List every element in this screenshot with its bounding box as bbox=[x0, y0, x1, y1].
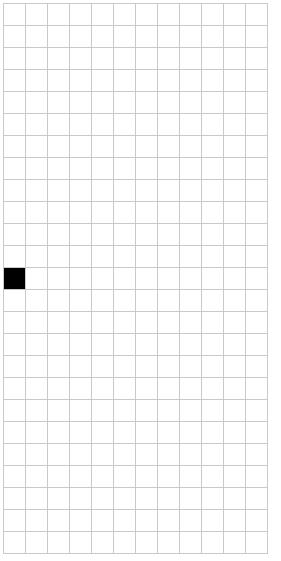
grid-cell[interactable] bbox=[4, 136, 26, 158]
grid-cell[interactable] bbox=[246, 356, 268, 378]
grid-cell[interactable] bbox=[180, 312, 202, 334]
grid-cell[interactable] bbox=[158, 532, 180, 554]
grid-cell[interactable] bbox=[26, 26, 48, 48]
grid-cell[interactable] bbox=[48, 400, 70, 422]
grid-cell[interactable] bbox=[4, 334, 26, 356]
grid-cell[interactable] bbox=[4, 92, 26, 114]
grid-cell[interactable] bbox=[48, 70, 70, 92]
grid-cell[interactable] bbox=[26, 290, 48, 312]
grid-cell[interactable] bbox=[224, 114, 246, 136]
grid-cell[interactable] bbox=[136, 268, 158, 290]
grid-cell[interactable] bbox=[70, 466, 92, 488]
grid-cell[interactable] bbox=[180, 158, 202, 180]
grid-cell[interactable] bbox=[246, 136, 268, 158]
grid-cell[interactable] bbox=[202, 4, 224, 26]
grid-cell[interactable] bbox=[180, 466, 202, 488]
grid-cell[interactable] bbox=[180, 114, 202, 136]
grid-cell[interactable] bbox=[158, 48, 180, 70]
grid-cell[interactable] bbox=[70, 180, 92, 202]
grid-cell[interactable] bbox=[48, 180, 70, 202]
grid-cell[interactable] bbox=[224, 180, 246, 202]
grid-cell[interactable] bbox=[4, 224, 26, 246]
grid-cell[interactable] bbox=[180, 334, 202, 356]
grid-cell[interactable] bbox=[224, 26, 246, 48]
grid-cell[interactable] bbox=[246, 224, 268, 246]
grid-cell[interactable] bbox=[136, 488, 158, 510]
grid-cell[interactable] bbox=[48, 26, 70, 48]
grid-cell[interactable] bbox=[70, 488, 92, 510]
grid-cell[interactable] bbox=[26, 356, 48, 378]
grid-cell[interactable] bbox=[202, 334, 224, 356]
grid-cell[interactable] bbox=[246, 422, 268, 444]
grid-cell[interactable] bbox=[92, 510, 114, 532]
grid-cell[interactable] bbox=[180, 224, 202, 246]
grid-cell[interactable] bbox=[136, 444, 158, 466]
grid-cell[interactable] bbox=[92, 180, 114, 202]
grid-cell[interactable] bbox=[114, 488, 136, 510]
grid-cell[interactable] bbox=[224, 444, 246, 466]
grid-cell-filled[interactable] bbox=[4, 268, 26, 290]
grid-cell[interactable] bbox=[180, 26, 202, 48]
grid-cell[interactable] bbox=[246, 400, 268, 422]
grid-cell[interactable] bbox=[4, 70, 26, 92]
grid-cell[interactable] bbox=[114, 202, 136, 224]
grid-cell[interactable] bbox=[70, 70, 92, 92]
grid-cell[interactable] bbox=[4, 466, 26, 488]
grid-cell[interactable] bbox=[202, 444, 224, 466]
grid-cell[interactable] bbox=[224, 4, 246, 26]
grid-cell[interactable] bbox=[70, 224, 92, 246]
grid-cell[interactable] bbox=[26, 136, 48, 158]
grid-cell[interactable] bbox=[114, 312, 136, 334]
grid-cell[interactable] bbox=[180, 400, 202, 422]
grid-cell[interactable] bbox=[4, 356, 26, 378]
grid-cell[interactable] bbox=[92, 70, 114, 92]
grid-cell[interactable] bbox=[48, 136, 70, 158]
grid-cell[interactable] bbox=[158, 400, 180, 422]
grid-cell[interactable] bbox=[92, 48, 114, 70]
grid-cell[interactable] bbox=[224, 268, 246, 290]
grid-cell[interactable] bbox=[70, 356, 92, 378]
grid-cell[interactable] bbox=[4, 312, 26, 334]
grid-cell[interactable] bbox=[114, 48, 136, 70]
grid-cell[interactable] bbox=[26, 48, 48, 70]
grid-cell[interactable] bbox=[136, 290, 158, 312]
grid-cell[interactable] bbox=[48, 422, 70, 444]
grid-cell[interactable] bbox=[26, 422, 48, 444]
grid-cell[interactable] bbox=[246, 48, 268, 70]
grid-cell[interactable] bbox=[26, 70, 48, 92]
grid-cell[interactable] bbox=[114, 158, 136, 180]
grid-cell[interactable] bbox=[70, 268, 92, 290]
grid-cell[interactable] bbox=[26, 466, 48, 488]
grid-cell[interactable] bbox=[92, 246, 114, 268]
grid-cell[interactable] bbox=[92, 378, 114, 400]
grid-cell[interactable] bbox=[4, 158, 26, 180]
grid-cell[interactable] bbox=[136, 26, 158, 48]
grid-cell[interactable] bbox=[4, 48, 26, 70]
grid-cell[interactable] bbox=[246, 532, 268, 554]
grid-cell[interactable] bbox=[202, 400, 224, 422]
grid-cell[interactable] bbox=[26, 312, 48, 334]
grid-cell[interactable] bbox=[70, 400, 92, 422]
grid-cell[interactable] bbox=[246, 114, 268, 136]
grid-cell[interactable] bbox=[224, 92, 246, 114]
grid-cell[interactable] bbox=[92, 92, 114, 114]
grid-cell[interactable] bbox=[136, 48, 158, 70]
grid-cell[interactable] bbox=[114, 334, 136, 356]
grid-cell[interactable] bbox=[136, 334, 158, 356]
grid-cell[interactable] bbox=[26, 444, 48, 466]
grid-cell[interactable] bbox=[136, 158, 158, 180]
grid-cell[interactable] bbox=[246, 466, 268, 488]
grid-cell[interactable] bbox=[48, 378, 70, 400]
grid-cell[interactable] bbox=[202, 158, 224, 180]
grid-cell[interactable] bbox=[48, 246, 70, 268]
grid-cell[interactable] bbox=[70, 378, 92, 400]
grid-cell[interactable] bbox=[224, 48, 246, 70]
grid-cell[interactable] bbox=[202, 180, 224, 202]
grid-cell[interactable] bbox=[4, 422, 26, 444]
grid-cell[interactable] bbox=[92, 444, 114, 466]
grid-cell[interactable] bbox=[70, 334, 92, 356]
grid-cell[interactable] bbox=[26, 334, 48, 356]
grid-cell[interactable] bbox=[224, 532, 246, 554]
grid-cell[interactable] bbox=[48, 202, 70, 224]
grid-cell[interactable] bbox=[26, 488, 48, 510]
